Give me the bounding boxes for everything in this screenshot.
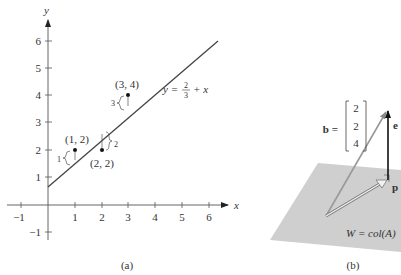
svg-text:(1, 2): (1, 2): [65, 133, 89, 146]
figure-canvas: x y −1 1 2 3 4 5 6: [0, 0, 401, 275]
svg-text:1: 1: [72, 211, 78, 223]
data-point-1-2: (1, 2) 1: [57, 133, 89, 165]
x-tick-labels: −1 1 2 3 4 5 6: [13, 211, 212, 223]
svg-text:2: 2: [184, 81, 188, 90]
svg-text:−1: −1: [13, 211, 25, 223]
x-axis-label: x: [233, 199, 239, 211]
regression-line: [48, 41, 218, 187]
svg-text:6: 6: [36, 35, 42, 47]
svg-text:3: 3: [184, 91, 188, 100]
svg-text:3: 3: [36, 116, 42, 128]
svg-text:3: 3: [111, 99, 115, 108]
svg-text:2: 2: [99, 211, 105, 223]
svg-text:y =: y =: [162, 83, 178, 95]
svg-text:+ x: + x: [193, 83, 208, 95]
svg-text:5: 5: [179, 211, 185, 223]
svg-text:4: 4: [36, 89, 42, 101]
svg-text:6: 6: [206, 211, 212, 223]
svg-text:(2, 2): (2, 2): [90, 157, 114, 170]
p-label: p: [392, 181, 398, 193]
panel-a: x y −1 1 2 3 4 5 6: [7, 4, 239, 272]
svg-text:3: 3: [125, 211, 131, 223]
panel-b: b = 2 2 4 e p W = col(A) (b): [270, 101, 401, 272]
svg-text:2: 2: [353, 120, 359, 132]
data-point-2-2: 2 (2, 2): [90, 132, 118, 170]
svg-text:1: 1: [36, 171, 42, 183]
b-vector-label: b = 2 2 4: [323, 101, 366, 151]
svg-text:2: 2: [36, 144, 42, 156]
panel-b-caption: (b): [347, 259, 360, 272]
y-axis-label: y: [43, 4, 49, 16]
plane-label: W = col(A): [346, 227, 396, 240]
svg-text:5: 5: [36, 62, 42, 74]
y-ticks: [45, 41, 52, 232]
svg-text:2: 2: [353, 102, 359, 114]
svg-text:1: 1: [57, 155, 61, 164]
data-point-3-4: (3, 4) 3: [111, 78, 139, 110]
svg-text:4: 4: [353, 137, 359, 149]
panel-a-caption: (a): [121, 259, 134, 272]
svg-text:(3, 4): (3, 4): [115, 78, 139, 91]
svg-text:b =: b =: [323, 123, 338, 135]
svg-text:2: 2: [114, 140, 118, 149]
line-equation-label: y = 2 3 + x: [162, 81, 208, 100]
svg-text:−1: −1: [29, 226, 41, 238]
y-tick-labels: 6 5 4 3 2 1 −1: [29, 35, 41, 238]
e-label: e: [393, 119, 398, 131]
svg-text:4: 4: [152, 211, 158, 223]
